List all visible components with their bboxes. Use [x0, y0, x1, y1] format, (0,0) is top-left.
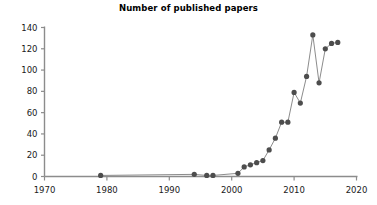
y-axis-tick-label: 0: [32, 172, 37, 182]
y-axis-tick-label: 40: [27, 129, 38, 139]
chart-plot-area: 020406080100120140 197019801990200020102…: [0, 0, 377, 205]
data-point-marker: [329, 41, 334, 46]
data-point-marker: [267, 147, 272, 152]
data-series-markers: [98, 32, 340, 178]
y-axis-tick-label: 80: [27, 86, 38, 96]
y-axis-tick-label: 60: [27, 108, 38, 118]
x-axis-tick-label: 1980: [96, 185, 118, 195]
data-point-marker: [335, 40, 340, 45]
data-point-marker: [192, 172, 197, 177]
data-point-marker: [242, 164, 247, 169]
data-point-marker: [292, 90, 297, 95]
y-axis-tick-label: 100: [21, 65, 37, 75]
x-axis-tick-label: 2010: [283, 185, 305, 195]
y-axis: 020406080100120140: [21, 23, 44, 182]
data-point-marker: [98, 173, 103, 178]
data-point-marker: [316, 80, 321, 85]
data-series-line: [101, 35, 338, 175]
data-point-marker: [323, 46, 328, 51]
y-axis-tick-label: 140: [21, 23, 37, 33]
x-axis-tick-label: 1990: [158, 185, 180, 195]
data-point-marker: [273, 136, 278, 141]
x-axis: 197019801990200020102020: [34, 177, 368, 195]
data-point-marker: [310, 32, 315, 37]
x-axis-tick-label: 2020: [346, 185, 368, 195]
chart-figure: Number of published papers 0204060801001…: [0, 0, 377, 205]
data-point-marker: [235, 171, 240, 176]
y-axis-tick-label: 20: [27, 150, 38, 160]
data-point-marker: [279, 120, 284, 125]
data-point-marker: [248, 162, 253, 167]
data-point-marker: [254, 160, 259, 165]
x-axis-tick-label: 1970: [34, 185, 56, 195]
data-point-marker: [285, 120, 290, 125]
data-point-marker: [210, 173, 215, 178]
x-axis-tick-label: 2000: [221, 185, 243, 195]
data-point-marker: [298, 100, 303, 105]
data-point-marker: [304, 74, 309, 79]
data-point-marker: [260, 158, 265, 163]
y-axis-tick-label: 120: [21, 44, 37, 54]
data-point-marker: [204, 173, 209, 178]
series-line: [101, 35, 338, 175]
